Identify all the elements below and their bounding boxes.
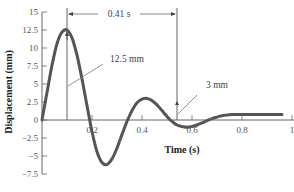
- y-tick-label: 2.5: [27, 97, 39, 107]
- y-tick-label: 15: [29, 7, 39, 17]
- y-tick-label: 12.5: [22, 25, 38, 35]
- arrow-right-icon: [171, 12, 176, 16]
- y-ticks: 1512.5107.552.50−2.5−5−7.5: [22, 7, 47, 179]
- amplitude2-label: 3 mm: [206, 80, 229, 90]
- y-tick-label: −2.5: [22, 133, 39, 143]
- x-tick-label: 1: [290, 125, 294, 135]
- displacement-curve: [42, 30, 282, 165]
- y-tick-label: −5: [28, 151, 38, 161]
- period-annotation: 0.41 s: [68, 9, 176, 19]
- y-axis-title: Displacement (mm): [3, 50, 15, 134]
- arrow-left-icon: [68, 12, 73, 16]
- x-ticks: 0.20.40.60.81: [86, 115, 294, 135]
- y-tick-label: 0: [34, 115, 39, 125]
- damped-oscillation-chart: 1512.5107.552.50−2.5−5−7.5 0.20.40.60.81…: [0, 0, 294, 192]
- x-tick-label: 0.4: [136, 125, 148, 135]
- arrow-up-icon: [175, 101, 179, 105]
- x-axis-title: Time (s): [164, 144, 199, 156]
- x-tick-label: 0.8: [236, 125, 248, 135]
- y-tick-label: 5: [34, 79, 39, 89]
- amplitude2-annotation: 3 mm: [175, 80, 229, 114]
- amplitude1-label: 12.5 mm: [110, 54, 144, 64]
- y-tick-label: 10: [29, 43, 39, 53]
- period-label: 0.41 s: [108, 9, 131, 19]
- y-tick-label: −7.5: [22, 169, 39, 179]
- y-tick-label: 7.5: [27, 61, 39, 71]
